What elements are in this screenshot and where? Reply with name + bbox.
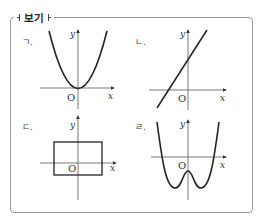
- panel-a-origin-label: O: [67, 92, 75, 103]
- graphs: ㄱ. O x y ㄴ. O x y ㄷ. O x y ㄹ. O x y: [0, 0, 262, 222]
- panel-a-y-label: y: [69, 29, 76, 39]
- panel-d: ㄹ. O x y: [135, 119, 226, 200]
- panel-d-x-label: x: [220, 160, 225, 170]
- panel-b-label: ㄴ.: [135, 37, 146, 47]
- panel-c-y-label: y: [69, 120, 76, 130]
- panel-d-y-label: y: [179, 119, 186, 129]
- panel-b-y-label: y: [179, 29, 186, 39]
- panel-a: ㄱ. O x y: [22, 29, 114, 109]
- panel-c-label: ㄷ.: [22, 122, 33, 132]
- panel-d-origin-label: O: [178, 160, 186, 171]
- panel-b-x-label: x: [220, 93, 225, 103]
- panel-d-label: ㄹ.: [135, 122, 146, 132]
- panel-c-x-label: x: [110, 163, 115, 173]
- panel-a-label: ㄱ.: [22, 37, 33, 47]
- panel-c: ㄷ. O x y: [22, 116, 116, 200]
- panel-b: ㄴ. O x y: [135, 29, 226, 110]
- panel-c-origin-label: O: [68, 163, 76, 174]
- panel-a-x-label: x: [108, 91, 113, 101]
- panel-b-origin-label: O: [178, 93, 186, 104]
